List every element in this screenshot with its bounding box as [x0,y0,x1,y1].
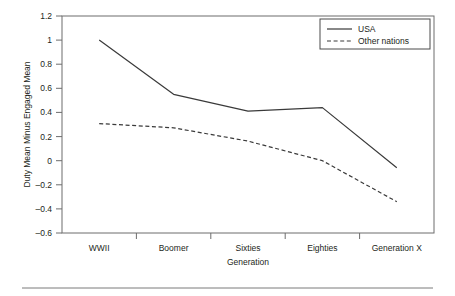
x-tick-label-wwii: WWII [89,243,110,253]
x-tick-label-generation-x: Generation X [372,243,422,253]
y-tick-label-neg0.4: –0.4 [35,204,52,214]
y-tick-label-1.2: 1.2 [40,11,52,21]
y-tick-label-neg0.2: –0.2 [35,180,52,190]
x-tick-label-boomer: Boomer [159,243,189,253]
y-tick-label-0.8: 0.8 [40,59,52,69]
y-tick-label-1: 1 [47,35,52,45]
y-tick-label-0.2: 0.2 [40,132,52,142]
x-axis-ticks [136,233,359,239]
line-chart-svg: 1.2 1 0.8 0.6 0.4 0.2 0 –0.2 –0.4 –0.6 W… [0,0,455,296]
x-axis-title: Generation [227,257,269,267]
y-axis-title: Duty Mean Minus Engaged Mean [22,61,32,187]
y-axis-ticks [56,16,62,233]
y-tick-label-0.4: 0.4 [40,107,52,117]
y-tick-label-0: 0 [47,156,52,166]
y-tick-label-0.6: 0.6 [40,83,52,93]
x-tick-label-sixties: Sixties [235,243,260,253]
chart-legend: USA Other nations [320,19,430,49]
chart-figure: 1.2 1 0.8 0.6 0.4 0.2 0 –0.2 –0.4 –0.6 W… [0,0,455,296]
legend-label-other-nations: Other nations [358,36,409,46]
y-tick-label-neg0.6: –0.6 [35,228,52,238]
x-tick-label-eighties: Eighties [307,243,337,253]
legend-label-usa: USA [358,24,376,34]
